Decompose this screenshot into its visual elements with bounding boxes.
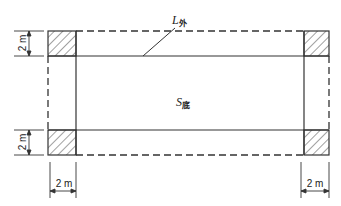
dim-top-left-vertical: 2 m [18, 30, 28, 56]
corner-square-top-left [48, 31, 76, 56]
outer-dashed-outline [48, 31, 329, 155]
corner-square-bottom-right [304, 130, 329, 155]
dim-bottom-left-vertical: 2 m [18, 129, 28, 155]
outer-perimeter-label: L外 [172, 14, 187, 28]
base-area-label: S底 [176, 96, 190, 110]
corner-square-top-right [304, 31, 329, 56]
outer-perimeter-subscript: 外 [179, 19, 187, 28]
corner-squares [48, 31, 329, 155]
dim-bottom-left-horizontal: 2 m [51, 179, 77, 189]
dim-bottom-right-horizontal: 2 m [302, 179, 328, 189]
outer-perimeter-symbol: L [172, 13, 179, 27]
corner-square-bottom-left [48, 130, 76, 155]
pit-plan-drawing [0, 0, 341, 206]
perimeter-leader-line [143, 28, 175, 56]
inner-base-outline [48, 31, 329, 155]
base-area-subscript: 底 [182, 101, 190, 110]
